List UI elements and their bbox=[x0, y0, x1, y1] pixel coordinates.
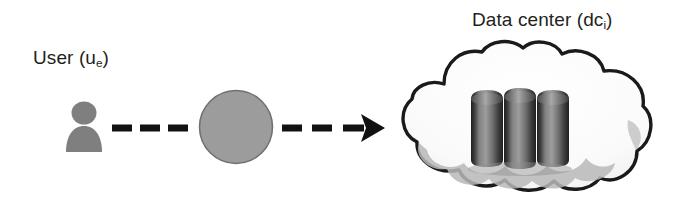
diagram-graphics bbox=[0, 0, 683, 222]
user-silhouette-icon bbox=[66, 102, 102, 153]
server-rack-2 bbox=[504, 88, 536, 169]
server-rack-3 bbox=[537, 90, 569, 167]
arrowhead-icon bbox=[361, 114, 385, 142]
diagram-canvas: User (ue) Data center (dci) dk bbox=[0, 0, 683, 222]
dashed-arrow-right bbox=[282, 114, 385, 142]
server-racks bbox=[468, 88, 572, 176]
server-rack-1 bbox=[471, 90, 503, 167]
demand-circle bbox=[200, 91, 273, 164]
